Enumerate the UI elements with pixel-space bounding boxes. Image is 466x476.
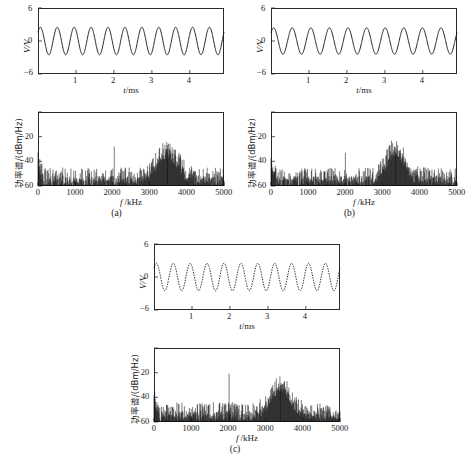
spectrum-axes-a bbox=[38, 112, 224, 186]
waveform-ytick-bot-c: −6 bbox=[140, 303, 149, 313]
spectrum-xtick-a-3: 3000 bbox=[141, 187, 158, 197]
waveform-xlabel-c: t/ms bbox=[154, 321, 340, 331]
spectrum-xtick-c-1: 1000 bbox=[182, 423, 199, 433]
spectrum-ytick-b-0: −20 bbox=[253, 131, 266, 141]
waveform-axes-b bbox=[271, 8, 457, 74]
waveform-ytick-bot-a: −6 bbox=[24, 67, 33, 77]
spectrum-ytick-b-2: −60 bbox=[253, 180, 266, 190]
waveform-xtick-b-1: 2 bbox=[344, 75, 348, 85]
waveform-ytick-top-b: 6 bbox=[261, 3, 265, 13]
waveform-xtick-c-0: 1 bbox=[189, 311, 193, 321]
waveform-xtick-a-3: 4 bbox=[187, 75, 191, 85]
waveform-ytick-mid-b: 0 bbox=[261, 35, 265, 45]
waveform-xlabel-b: t/ms bbox=[271, 85, 457, 95]
spectrum-xtick-c-5: 5000 bbox=[331, 423, 348, 433]
waveform-ytick-top-c: 6 bbox=[144, 239, 148, 249]
spectrum-ytick-c-2: −60 bbox=[136, 416, 149, 426]
panel-b: V/V60−61234t/ms功率谱/(dBm/Hz)−20−40−600100… bbox=[233, 0, 466, 232]
spectrum-ytick-c-1: −40 bbox=[136, 391, 149, 401]
waveform-xtick-c-2: 3 bbox=[265, 311, 269, 321]
panel-a: V/V60−61234t/ms功率谱/(dBm/Hz)−20−40−600100… bbox=[0, 0, 233, 232]
spectrum-ytick-a-0: −20 bbox=[20, 131, 33, 141]
spectrum-xtick-b-3: 3000 bbox=[374, 187, 391, 197]
waveform-axes-c bbox=[154, 244, 340, 310]
waveform-xtick-b-2: 3 bbox=[382, 75, 386, 85]
spectrum-xtick-a-4: 4000 bbox=[178, 187, 195, 197]
spectrum-xtick-a-5: 5000 bbox=[215, 187, 232, 197]
spectrum-axes-c bbox=[154, 348, 340, 422]
spectrum-xtick-c-3: 3000 bbox=[257, 423, 274, 433]
waveform-xtick-a-1: 2 bbox=[111, 75, 115, 85]
spectrum-ytick-c-0: −20 bbox=[136, 367, 149, 377]
waveform-xtick-b-0: 1 bbox=[306, 75, 310, 85]
spectrum-xlabel-b: f /kHz bbox=[271, 197, 457, 207]
waveform-axes-a bbox=[38, 8, 224, 74]
waveform-ytick-bot-b: −6 bbox=[257, 67, 266, 77]
spectrum-xlabel-c: f /kHz bbox=[154, 433, 340, 443]
spectrum-xtick-b-5: 5000 bbox=[448, 187, 465, 197]
spectrum-xtick-b-2: 2000 bbox=[337, 187, 354, 197]
waveform-xtick-a-2: 3 bbox=[149, 75, 153, 85]
waveform-xtick-b-3: 4 bbox=[420, 75, 424, 85]
spectrum-xtick-b-4: 4000 bbox=[411, 187, 428, 197]
panel-caption-c: (c) bbox=[116, 444, 354, 454]
spectrum-xtick-b-1: 1000 bbox=[299, 187, 316, 197]
spectrum-xlabel-a: f /kHz bbox=[38, 197, 224, 207]
spectrum-xtick-a-2: 2000 bbox=[104, 187, 121, 197]
spectrum-ytick-b-1: −40 bbox=[253, 155, 266, 165]
spectrum-axes-b bbox=[271, 112, 457, 186]
waveform-ytick-top-a: 6 bbox=[28, 3, 32, 13]
panel-caption-b: (b) bbox=[233, 208, 466, 218]
spectrum-ylabel-a: 功率谱/(dBm/Hz) bbox=[12, 118, 24, 188]
panel-caption-a: (a) bbox=[0, 208, 233, 218]
waveform-xlabel-a: t/ms bbox=[38, 85, 224, 95]
panel-c: V/V60−61234t/ms功率谱/(dBm/Hz)−20−40−600100… bbox=[116, 236, 354, 476]
spectrum-xtick-c-2: 2000 bbox=[220, 423, 237, 433]
spectrum-ytick-a-2: −60 bbox=[20, 180, 33, 190]
waveform-ytick-mid-a: 0 bbox=[28, 35, 32, 45]
spectrum-xtick-a-1: 1000 bbox=[66, 187, 83, 197]
waveform-xtick-c-1: 2 bbox=[227, 311, 231, 321]
spectrum-xtick-c-0: 0 bbox=[152, 423, 156, 433]
waveform-ytick-mid-c: 0 bbox=[144, 271, 148, 281]
waveform-xtick-a-0: 1 bbox=[73, 75, 77, 85]
spectrum-ylabel-c: 功率谱/(dBm/Hz) bbox=[128, 354, 140, 424]
spectrum-xtick-a-0: 0 bbox=[36, 187, 40, 197]
spectrum-xtick-c-4: 4000 bbox=[294, 423, 311, 433]
waveform-xtick-c-3: 4 bbox=[303, 311, 307, 321]
spectrum-xtick-b-0: 0 bbox=[269, 187, 273, 197]
spectrum-ytick-a-1: −40 bbox=[20, 155, 33, 165]
spectrum-ylabel-b: 功率谱/(dBm/Hz) bbox=[245, 118, 257, 188]
